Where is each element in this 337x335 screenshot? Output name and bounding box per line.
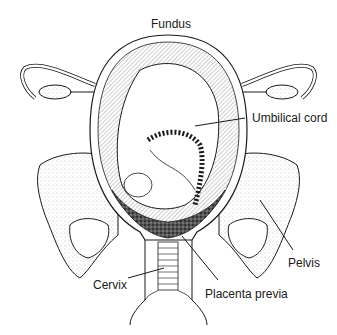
leader-cervix xyxy=(128,268,164,278)
label-placenta-previa: Placenta previa xyxy=(205,288,288,300)
fallopian-tube-right xyxy=(242,66,315,99)
fetus xyxy=(117,63,219,208)
label-cervix: Cervix xyxy=(93,279,127,291)
leader-placenta-previa xyxy=(182,236,218,280)
label-pelvis: Pelvis xyxy=(288,257,320,269)
diagram-canvas: Fundus Umbilical cord Pelvis Cervix Plac… xyxy=(0,0,337,335)
label-umbilical-cord: Umbilical cord xyxy=(252,112,327,124)
label-fundus: Fundus xyxy=(151,18,191,30)
anatomy-illustration xyxy=(0,0,337,335)
fallopian-tube-left xyxy=(22,66,95,99)
